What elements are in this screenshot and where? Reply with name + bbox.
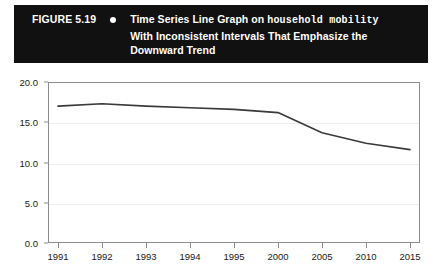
figure-caption-text: Time Series Line Graph on household mobi… bbox=[130, 12, 379, 58]
x-axis-tick-mark bbox=[410, 243, 411, 248]
caption-line-1: Time Series Line Graph on household mobi… bbox=[130, 12, 379, 29]
y-axis: 0.05.010.015.020.0 bbox=[0, 82, 44, 243]
x-axis-tick-label: 1995 bbox=[223, 251, 244, 262]
figure-number-label: FIGURE 5.19 bbox=[14, 12, 96, 25]
data-line bbox=[58, 104, 410, 150]
chart-area: 0.05.010.015.020.0 199119921993199419952… bbox=[0, 70, 442, 274]
x-axis-tick-mark bbox=[234, 243, 235, 248]
y-axis-tick-label: 5.0 bbox=[25, 197, 38, 208]
x-axis-tick-mark bbox=[146, 243, 147, 248]
caption-mono-term: household mobility bbox=[267, 15, 379, 26]
x-axis-tick-label: 2010 bbox=[355, 251, 376, 262]
x-axis-tick-mark bbox=[190, 243, 191, 248]
x-axis-tick-mark bbox=[366, 243, 367, 248]
caption-line-1-prefix: Time Series Line Graph on bbox=[130, 13, 267, 25]
bullet-dot-icon bbox=[110, 17, 116, 23]
x-axis-tick-mark bbox=[278, 243, 279, 248]
figure-caption-bar: FIGURE 5.19 Time Series Line Graph on ho… bbox=[14, 5, 428, 63]
caption-line-2: With Inconsistent Intervals That Emphasi… bbox=[130, 29, 379, 44]
x-axis-tick-mark bbox=[58, 243, 59, 248]
x-axis-tick-label: 1992 bbox=[91, 251, 112, 262]
x-axis-tick-label: 1994 bbox=[179, 251, 200, 262]
line-series-layer bbox=[48, 82, 420, 243]
y-axis-tick-label: 15.0 bbox=[20, 117, 39, 128]
y-axis-tick-label: 10.0 bbox=[20, 157, 39, 168]
caption-row: FIGURE 5.19 Time Series Line Graph on ho… bbox=[14, 12, 428, 58]
x-axis: 199119921993199419952000200520102015 bbox=[48, 249, 420, 269]
x-axis-tick-mark bbox=[322, 243, 323, 248]
x-axis-tick-label: 2015 bbox=[399, 251, 420, 262]
figure-container: FIGURE 5.19 Time Series Line Graph on ho… bbox=[0, 0, 442, 274]
x-axis-tick-label: 2000 bbox=[267, 251, 288, 262]
y-axis-tick-label: 0.0 bbox=[25, 238, 38, 249]
x-axis-tick-label: 1993 bbox=[135, 251, 156, 262]
x-axis-tick-mark bbox=[102, 243, 103, 248]
x-axis-tick-label: 2005 bbox=[311, 251, 332, 262]
caption-line-3: Downward Trend bbox=[130, 43, 379, 58]
y-axis-tick-label: 20.0 bbox=[20, 77, 39, 88]
x-axis-tick-label: 1991 bbox=[47, 251, 68, 262]
